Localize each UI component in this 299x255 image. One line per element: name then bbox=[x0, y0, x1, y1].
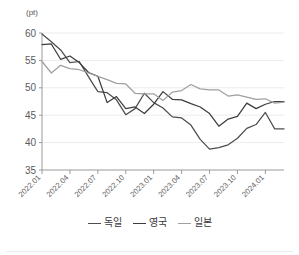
x-axis-tick-label: 2023.07 bbox=[184, 173, 210, 199]
legend-label: 영국 bbox=[149, 218, 167, 228]
y-axis-tick-label: 50 bbox=[25, 82, 37, 93]
data-series-lines bbox=[42, 34, 284, 149]
x-axis-tick-label: 2022.01 bbox=[17, 173, 43, 199]
legend-line-swatch-icon bbox=[178, 223, 191, 224]
x-axis-tick-label: 2022.04 bbox=[45, 173, 71, 199]
x-axis-tick-labels: 2022.012022.042022.072022.102023.012023.… bbox=[17, 173, 266, 199]
legend-line-swatch-icon bbox=[133, 223, 146, 224]
x-axis-tick-label: 2024.01 bbox=[240, 173, 266, 199]
legend-label: 일본 bbox=[194, 218, 212, 228]
x-axis-tick-marks bbox=[42, 170, 265, 174]
x-axis-tick-label: 2023.04 bbox=[156, 173, 182, 199]
axis-lines bbox=[42, 33, 284, 170]
y-axis-tick-label: 55 bbox=[25, 55, 37, 66]
x-axis-tick-label: 2022.07 bbox=[72, 173, 98, 199]
chart-figure: (pt) 354045505560 2022.012022.042022.072… bbox=[0, 0, 299, 255]
legend-label: 독일 bbox=[104, 218, 122, 228]
legend-item-3[interactable]: 일본 bbox=[178, 218, 212, 228]
line-chart-svg: 354045505560 2022.012022.042022.072022.1… bbox=[0, 0, 299, 215]
y-axis-tick-label: 60 bbox=[25, 28, 37, 39]
plot-area: 354045505560 2022.012022.042022.072022.1… bbox=[0, 0, 299, 215]
legend-item-1[interactable]: 독일 bbox=[88, 218, 122, 228]
chart-legend: 독일영국일본 bbox=[0, 218, 299, 228]
y-axis-tick-label: 40 bbox=[25, 137, 37, 148]
legend-item-2[interactable]: 영국 bbox=[133, 218, 167, 228]
gridlines bbox=[42, 33, 284, 143]
series-line-일본 bbox=[42, 62, 284, 104]
x-axis-tick-label: 2023.10 bbox=[212, 173, 238, 199]
legend-line-swatch-icon bbox=[88, 223, 101, 224]
x-axis-tick-label: 2022.10 bbox=[100, 173, 126, 199]
y-axis-tick-labels: 354045505560 bbox=[25, 28, 42, 176]
y-axis-tick-label: 45 bbox=[25, 110, 37, 121]
x-axis-tick-label: 2023.01 bbox=[128, 173, 154, 199]
bottom-divider bbox=[6, 251, 293, 252]
series-line-영국 bbox=[42, 44, 284, 126]
